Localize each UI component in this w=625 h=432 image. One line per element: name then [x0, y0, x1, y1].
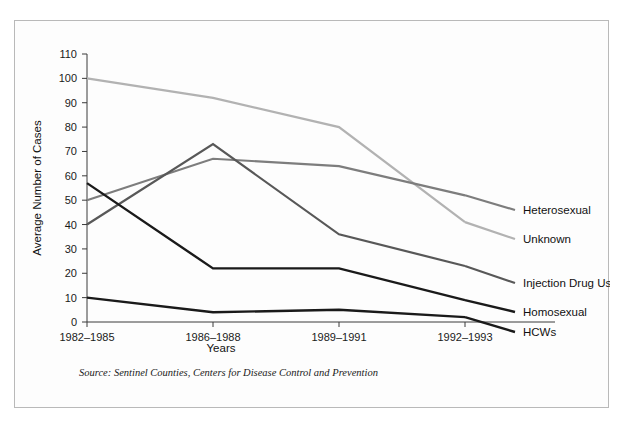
series-line-homosexual	[87, 183, 465, 300]
y-tick-label: 20	[65, 267, 77, 279]
leader-line-homosexual	[465, 300, 515, 312]
series-label-injection-drug-use: Injection Drug Use	[523, 277, 610, 289]
x-axis-title: Years	[207, 342, 236, 354]
series-label-homosexual: Homosexual	[523, 306, 587, 318]
y-tick-label: 70	[65, 145, 77, 157]
y-tick-label: 60	[65, 170, 77, 182]
series-line-unknown	[87, 78, 465, 222]
y-tick-label: 100	[59, 72, 77, 84]
y-tick-label: 90	[65, 97, 77, 109]
y-tick-marks	[82, 54, 87, 322]
source-note: Source: Sentinel Counties, Centers for D…	[79, 367, 378, 378]
y-tick-label: 80	[65, 121, 77, 133]
x-tick-label: 1982–1985	[59, 331, 114, 343]
y-tick-label: 40	[65, 219, 77, 231]
line-chart: 0102030405060708090100110 Average Number…	[15, 21, 610, 409]
series-label-unknown: Unknown	[523, 233, 571, 245]
leader-line-hcws	[465, 317, 515, 332]
leader-line-unknown	[465, 222, 515, 239]
y-tick-label: 30	[65, 243, 77, 255]
y-axis-title: Average Number of Cases	[31, 120, 43, 256]
x-tick-labels: 1982–19851986–19881989–19911992–1993	[59, 331, 492, 343]
x-tick-label: 1989–1991	[311, 331, 366, 343]
x-axis: 1982–19851986–19881989–19911992–1993 Yea…	[59, 322, 555, 354]
series-label-heterosexual: Heterosexual	[523, 204, 591, 216]
series-labels: UnknownHeterosexualInjection Drug UseHom…	[523, 204, 610, 338]
leader-line-heterosexual	[465, 195, 515, 210]
y-tick-label: 110	[59, 48, 77, 60]
series-label-hcws: HCWs	[523, 326, 556, 338]
figure-frame: 0102030405060708090100110 Average Number…	[14, 20, 609, 408]
x-tick-marks	[87, 322, 465, 327]
y-tick-label: 10	[65, 292, 77, 304]
series-lines	[87, 78, 515, 332]
y-axis: 0102030405060708090100110 Average Number…	[31, 48, 87, 328]
y-tick-label: 0	[71, 316, 77, 328]
leader-line-injection-drug-use	[465, 266, 515, 283]
y-tick-labels: 0102030405060708090100110	[59, 48, 77, 328]
series-line-hcws	[87, 298, 465, 317]
y-tick-label: 50	[65, 194, 77, 206]
x-tick-label: 1992–1993	[437, 331, 492, 343]
